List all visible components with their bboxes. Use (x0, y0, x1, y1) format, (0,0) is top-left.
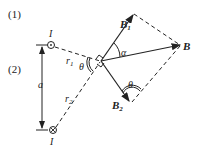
theta-angle-arc-left (87, 57, 93, 72)
vector-B2 (101, 61, 129, 101)
magnetic-field-diagram: (1) (2) a I I r1 r2 θ α (0, 0, 198, 160)
vector-B1 (101, 15, 133, 61)
parallelogram-right (132, 46, 180, 102)
part-2-label: (2) (8, 63, 21, 76)
r2-line (56, 62, 100, 127)
current-in-icon (50, 127, 57, 134)
B-label: B (182, 40, 190, 52)
r2-label: r2 (65, 93, 73, 106)
parallelogram-top (134, 14, 180, 45)
r1-line (55, 47, 100, 61)
distance-a-label: a (38, 79, 43, 90)
vector-B (101, 45, 180, 61)
part-1-label: (1) (8, 8, 21, 21)
current-bottom-label: I (49, 136, 54, 147)
B2-label: B2 (111, 99, 123, 113)
r1-label: r1 (66, 55, 73, 68)
alpha-angle-arc (114, 43, 120, 57)
alpha-label: α (121, 47, 127, 58)
theta-left-label: θ (79, 61, 84, 72)
current-top-label: I (48, 28, 53, 39)
theta-right-label: θ (128, 79, 133, 90)
current-out-icon (48, 42, 55, 49)
